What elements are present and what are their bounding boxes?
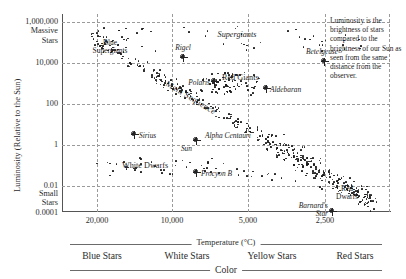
- star-point: [321, 180, 323, 182]
- y-tick-1000000: 1,000,000 Massive Stars: [0, 17, 58, 45]
- color-band-red-stars: Red Stars: [310, 250, 400, 261]
- star-point: [303, 46, 305, 48]
- star-point: [169, 173, 171, 175]
- star-point: [302, 157, 304, 159]
- star-point: [230, 91, 232, 93]
- star-point: [371, 194, 373, 196]
- star-point: [288, 147, 290, 149]
- star-point: [275, 135, 277, 137]
- star-point: [313, 164, 315, 166]
- star-point: [235, 88, 237, 90]
- star-point: [153, 69, 155, 71]
- hr-diagram-figure: Luminosity (Relative to the Sun) 1,000,0…: [0, 0, 406, 279]
- star-point: [135, 58, 137, 60]
- star-point: [143, 69, 145, 71]
- star-marker-sirius: [131, 131, 136, 136]
- star-point: [250, 94, 252, 96]
- star-point: [253, 47, 255, 49]
- star-point: [136, 32, 138, 34]
- star-point: [295, 29, 297, 31]
- star-point: [129, 66, 131, 68]
- star-point: [284, 150, 286, 152]
- star-point: [138, 60, 140, 62]
- star-point: [207, 30, 209, 32]
- star-point: [278, 154, 280, 156]
- label-white-dwarfs: White Dwarfs: [122, 162, 168, 171]
- star-point: [329, 169, 331, 171]
- star-point: [332, 179, 334, 181]
- star-point: [251, 176, 253, 178]
- x-axis-title: Temperature (°C): [192, 238, 261, 247]
- star-point: [372, 200, 374, 202]
- star-point: [235, 127, 237, 129]
- star-point: [99, 36, 101, 38]
- star-point: [358, 195, 360, 197]
- star-point: [313, 35, 315, 37]
- star-point: [337, 174, 339, 176]
- star-point: [211, 73, 213, 75]
- star-point: [367, 206, 369, 208]
- star-point: [300, 149, 302, 151]
- star-point: [165, 76, 167, 78]
- y-axis-title: Luminosity (Relative to the Sun): [13, 79, 22, 192]
- star-point: [109, 175, 111, 177]
- star-point: [267, 140, 269, 142]
- star-point: [155, 79, 157, 81]
- star-point: [309, 39, 311, 41]
- star-point: [297, 161, 299, 163]
- star-point: [263, 144, 265, 146]
- star-point: [306, 163, 308, 165]
- star-point: [188, 31, 190, 33]
- star-point: [259, 78, 261, 80]
- star-point: [252, 92, 254, 94]
- star-point: [341, 177, 343, 179]
- gridline-5000: [248, 14, 249, 212]
- star-point: [293, 152, 295, 154]
- luminosity-caption: Luminosity is the brightness of stars co…: [330, 16, 404, 80]
- star-point: [308, 163, 310, 165]
- star-point: [182, 160, 184, 162]
- star-point: [274, 173, 276, 175]
- label-blue-supergiants: Blue Supergiants: [93, 39, 128, 55]
- star-point: [312, 157, 314, 159]
- star-point: [319, 160, 321, 162]
- star-point: [298, 164, 300, 166]
- y-tick-1: 1: [0, 140, 58, 149]
- star-point: [176, 78, 178, 80]
- star-point: [353, 181, 355, 183]
- star-point: [267, 136, 269, 138]
- star-point: [103, 27, 105, 29]
- star-point: [237, 118, 239, 120]
- star-point: [358, 203, 360, 205]
- star-point: [175, 160, 177, 162]
- y-tick-0.0001: Small Stars 0.0001: [0, 189, 58, 217]
- star-point: [337, 182, 339, 184]
- star-point: [143, 65, 145, 67]
- star-point: [118, 30, 120, 32]
- x-tick-5000: 5,000: [218, 216, 278, 225]
- star-point: [247, 89, 249, 91]
- star-point: [361, 188, 363, 190]
- star-point: [315, 177, 317, 179]
- star-point: [236, 168, 238, 170]
- star-point: [376, 201, 378, 203]
- star-point: [164, 74, 166, 76]
- star-point: [333, 181, 335, 183]
- gridline-2500: [325, 14, 326, 212]
- star-point: [237, 121, 239, 123]
- star-point: [265, 142, 267, 144]
- color-axis-title-row: Color: [62, 264, 390, 276]
- star-point: [143, 71, 145, 73]
- y-axis-line: [62, 14, 63, 212]
- star-label-sirius: Sirius: [139, 132, 156, 140]
- star-point: [268, 173, 270, 175]
- star-point: [223, 117, 225, 119]
- star-point: [257, 129, 259, 131]
- star-point: [223, 163, 225, 165]
- star-marker-barnards-star: [329, 208, 334, 213]
- rule-right-temperature: [252, 244, 382, 245]
- color-band-row: Blue Stars White Stars Yellow Stars Red …: [62, 250, 390, 264]
- star-point: [283, 153, 285, 155]
- color-band-white-stars: White Stars: [142, 250, 232, 261]
- star-point: [160, 84, 162, 86]
